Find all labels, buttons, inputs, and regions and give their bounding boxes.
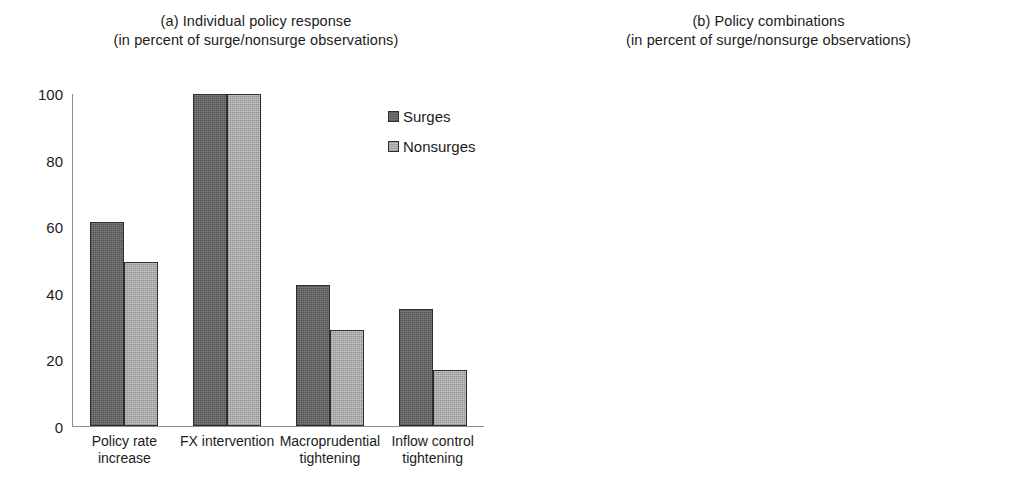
- x-axis-line-a: [72, 426, 484, 427]
- legend-label: Surges: [403, 108, 451, 125]
- legend-swatch-surges-icon: [388, 111, 399, 122]
- y-axis-tick-label: 40: [46, 285, 72, 302]
- panel-individual-policy-response: (a) Individual policy response (in perce…: [0, 0, 512, 489]
- bar-group: [73, 94, 176, 426]
- x-axis-category-label: Inflow controltightening: [381, 433, 484, 467]
- panel-policy-combinations: (b) Policy combinations (in percent of s…: [512, 0, 1025, 489]
- legend-item-surges[interactable]: Surges: [388, 108, 476, 125]
- bar-surges: [90, 222, 124, 426]
- y-axis-tick-label: 20: [46, 352, 72, 369]
- panel-b-title-line1: (b) Policy combinations: [692, 13, 844, 29]
- panel-a-title: (a) Individual policy response (in perce…: [0, 12, 512, 50]
- bar-surges: [193, 94, 227, 426]
- legend-label: Nonsurges: [403, 138, 476, 155]
- x-axis-category-label: FX intervention: [176, 433, 279, 467]
- bar-surges: [296, 285, 330, 426]
- panel-a-title-line1: (a) Individual policy response: [161, 13, 352, 29]
- x-axis-category-label-line2: tightening: [279, 450, 382, 467]
- legend-item-nonsurges[interactable]: Nonsurges: [388, 138, 476, 155]
- figure-two-panel-bar-charts: (a) Individual policy response (in perce…: [0, 0, 1025, 489]
- x-axis-category-label-line1: Inflow control: [391, 433, 473, 449]
- y-axis-tick-label: 100: [38, 86, 72, 103]
- bar-nonsurges: [227, 94, 261, 426]
- panel-b-title-line2: (in percent of surge/nonsurge observatio…: [512, 31, 1025, 50]
- y-axis-tick-label: 0: [55, 419, 72, 436]
- x-axis-category-label-line1: Policy rate: [92, 433, 157, 449]
- x-axis-category-label-line1: FX intervention: [180, 433, 274, 449]
- panel-a-title-line2: (in percent of surge/nonsurge observatio…: [0, 31, 512, 50]
- x-axis-category-label: Policy rateincrease: [73, 433, 176, 467]
- bar-surges: [399, 309, 433, 426]
- bar-group: [279, 94, 382, 426]
- bar-nonsurges: [433, 370, 467, 426]
- legend-a: SurgesNonsurges: [388, 108, 476, 168]
- bar-group: [176, 94, 279, 426]
- x-axis-category-label: Macroprudentialtightening: [279, 433, 382, 467]
- x-axis-category-label-line1: Macroprudential: [280, 433, 380, 449]
- y-axis-tick-label: 60: [46, 219, 72, 236]
- x-axis-labels-a: Policy rateincreaseFX interventionMacrop…: [73, 433, 484, 467]
- panel-b-title: (b) Policy combinations (in percent of s…: [512, 12, 1025, 50]
- bar-nonsurges: [124, 262, 158, 426]
- x-axis-category-label-line2: increase: [73, 450, 176, 467]
- bar-nonsurges: [330, 330, 364, 426]
- legend-swatch-nonsurges-icon: [388, 141, 399, 152]
- x-axis-category-label-line2: tightening: [381, 450, 484, 467]
- y-axis-tick-label: 80: [46, 152, 72, 169]
